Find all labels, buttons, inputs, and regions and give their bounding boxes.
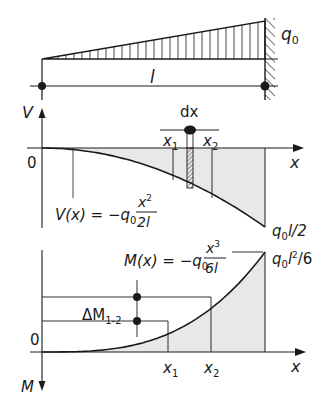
dx-marker-icon [184,126,196,135]
delta-m-label: ΔM1-2 [82,306,122,326]
beam-diagram: q0 l V 0 x dx x1 x2 V(x) = −q [0,0,336,410]
x-axis-label: x [289,153,300,172]
svg-text:M(x) = −q0: M(x) = −q0 [124,252,208,272]
delta-lower-dot-icon [133,317,141,325]
svg-text:x2: x2 [137,193,152,210]
x2-label: x2 [202,132,218,152]
x1-label: x1 [162,132,178,152]
shear-diagram: V 0 x dx x1 x2 V(x) = −q0 x2 2l q0l/2 [22,103,307,242]
m-axis-label: M [21,378,34,396]
origin-label: 0 [27,154,37,172]
svg-text:x3: x3 [205,239,220,256]
m-origin-label: 0 [30,331,40,349]
dx-strip [187,148,193,188]
mx1-label: x1 [162,359,178,379]
load-label: q0 [281,24,299,47]
mx-axis-label: x [290,357,301,376]
dx-label: dx [180,103,199,121]
shear-formula: V(x) = −q0 x2 2l [55,193,157,230]
mx-axis-arrow-icon [295,348,306,356]
svg-text:V(x) = −q0: V(x) = −q0 [55,206,136,226]
beam-section: q0 l [30,18,299,100]
v-axis-label: V [22,103,34,122]
moment-end-value: q0l2/6 [272,250,312,270]
mx2-label: x2 [203,359,219,379]
right-node [261,82,270,91]
distributed-load [42,21,265,59]
left-node [38,82,46,90]
moment-diagram: ΔM1-2 0 M x x1 x2 M(x) = −q0 x3 6l q0l2/… [21,239,312,396]
delta-upper-dot-icon [133,293,141,301]
svg-text:6l: 6l [205,260,218,276]
m-axis-arrow-icon [39,381,46,391]
moment-formula: M(x) = −q0 x3 6l [124,239,226,276]
svg-text:2l: 2l [137,214,150,230]
shear-end-value: q0l/2 [272,222,307,242]
v-axis-arrow-icon [39,108,46,118]
length-label: l [150,67,155,87]
x-axis-arrow-icon [293,144,304,152]
